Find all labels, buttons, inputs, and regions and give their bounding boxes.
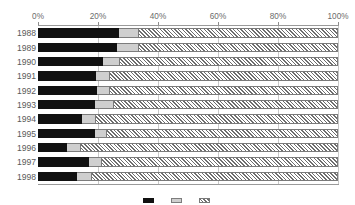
x-axis-tick-mark <box>38 22 39 25</box>
stacked-bar <box>38 71 338 80</box>
legend-item <box>171 198 185 203</box>
bar-segment-series-3 <box>91 172 338 181</box>
x-axis-tick-label: 100% <box>328 12 349 22</box>
bar-segment-series-3 <box>138 28 338 37</box>
chart-row: 1990 <box>38 55 338 69</box>
bar-segment-series-3 <box>109 86 338 95</box>
chart-row: 1992 <box>38 83 338 97</box>
chart-legend <box>0 198 355 205</box>
legend-swatch-icon <box>171 198 182 203</box>
x-axis-tick-label: 0% <box>32 12 44 22</box>
stacked-bar <box>38 157 338 166</box>
chart-row: 1993 <box>38 98 338 112</box>
x-axis-tick-labels: 0%20%40%60%80%100% <box>0 12 355 23</box>
bar-segment-series-3 <box>106 129 338 138</box>
category-label: 1989 <box>2 43 36 53</box>
bar-segment-series-1 <box>38 86 97 95</box>
category-label: 1996 <box>2 143 36 153</box>
bar-segment-series-2 <box>95 100 113 109</box>
x-axis-tick-mark <box>218 22 219 25</box>
x-axis-tick-mark <box>158 22 159 25</box>
legend-swatch-icon <box>143 198 154 203</box>
stacked-bar <box>38 143 338 152</box>
bar-segment-series-2 <box>97 86 109 95</box>
bar-segment-series-1 <box>38 71 96 80</box>
bar-segment-series-2 <box>103 57 119 66</box>
stacked-bar <box>38 100 338 109</box>
bar-segment-series-3 <box>138 43 338 52</box>
chart-row: 1989 <box>38 40 338 54</box>
legend-swatch-icon <box>199 198 210 203</box>
bar-segment-series-2 <box>117 43 138 52</box>
category-label: 1998 <box>2 172 36 182</box>
bar-segment-series-2 <box>82 114 95 123</box>
stacked-bar <box>38 172 338 181</box>
bar-segment-series-1 <box>38 100 95 109</box>
category-label: 1991 <box>2 71 36 81</box>
gridline <box>338 26 339 184</box>
x-axis-tick-mark <box>98 22 99 25</box>
bar-segment-series-3 <box>101 157 338 166</box>
stacked-bar <box>38 129 338 138</box>
category-label: 1993 <box>2 100 36 110</box>
x-axis-tick-mark <box>338 22 339 25</box>
chart-row: 1994 <box>38 112 338 126</box>
category-label: 1997 <box>2 157 36 167</box>
chart-row: 1988 <box>38 26 338 40</box>
bar-segment-series-1 <box>38 157 89 166</box>
bar-segment-series-2 <box>77 172 91 181</box>
legend-item <box>143 198 157 203</box>
bar-segment-series-3 <box>113 100 338 109</box>
x-axis-tick-label: 60% <box>210 12 226 22</box>
bar-segment-series-2 <box>119 28 138 37</box>
bar-segment-series-2 <box>67 143 80 152</box>
stacked-bar <box>38 43 338 52</box>
plot-area: 1988198919901991199219931994199519961997… <box>38 26 338 184</box>
category-label: 1994 <box>2 114 36 124</box>
chart-row: 1998 <box>38 170 338 184</box>
bar-segment-series-2 <box>95 129 106 138</box>
bar-segment-series-3 <box>95 114 338 123</box>
x-axis-tick-label: 80% <box>270 12 286 22</box>
bar-segment-series-2 <box>89 157 101 166</box>
bar-segment-series-3 <box>80 143 338 152</box>
x-axis-tick-label: 40% <box>150 12 166 22</box>
chart-row: 1995 <box>38 127 338 141</box>
bar-segment-series-1 <box>38 129 95 138</box>
category-label: 1992 <box>2 86 36 96</box>
category-label: 1988 <box>2 28 36 38</box>
chart-row: 1997 <box>38 155 338 169</box>
bar-segment-series-1 <box>38 57 103 66</box>
chart-row: 1991 <box>38 69 338 83</box>
category-label: 1995 <box>2 129 36 139</box>
x-axis-tick-label: 20% <box>90 12 106 22</box>
bar-segment-series-1 <box>38 172 77 181</box>
bar-segment-series-3 <box>119 57 338 66</box>
stacked-bar <box>38 57 338 66</box>
stacked-bar <box>38 28 338 37</box>
bar-segment-series-2 <box>96 71 109 80</box>
chart-row: 1996 <box>38 141 338 155</box>
plot-bottom-border <box>38 184 339 185</box>
legend-item <box>199 198 213 203</box>
stacked-bar <box>38 86 338 95</box>
stacked-bar-chart: 0%20%40%60%80%100% 198819891990199119921… <box>0 0 355 205</box>
bar-segment-series-1 <box>38 28 119 37</box>
category-label: 1990 <box>2 57 36 67</box>
bar-segment-series-1 <box>38 143 67 152</box>
bar-segment-series-1 <box>38 114 82 123</box>
stacked-bar <box>38 114 338 123</box>
x-axis-tick-mark <box>278 22 279 25</box>
bar-segment-series-1 <box>38 43 117 52</box>
bar-segment-series-3 <box>109 71 338 80</box>
